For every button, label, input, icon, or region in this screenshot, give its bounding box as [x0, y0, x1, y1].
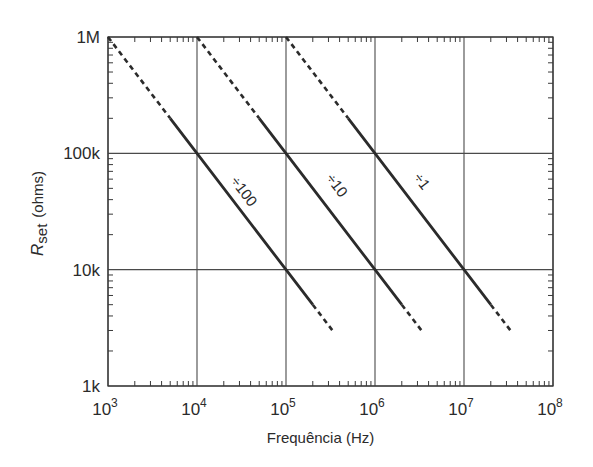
y-tick-label: 1M — [76, 28, 100, 47]
series-line-dashed-lower — [313, 305, 333, 331]
series-line-dashed-upper — [286, 37, 348, 118]
y-axis-title: Rset(ohms) — [28, 171, 50, 256]
series-lines — [108, 37, 511, 331]
series-line-solid — [170, 118, 313, 304]
series-label: ÷10 — [323, 170, 352, 200]
x-tick-label: 104 — [181, 396, 207, 419]
y-axis-title-unit: (ohms) — [29, 171, 46, 218]
series-line-dashed-upper — [108, 37, 170, 118]
y-axis-title-sub: set — [33, 223, 50, 244]
x-axis-tick-labels: 103104105106107108 — [92, 396, 563, 419]
series-label: ÷1 — [410, 169, 434, 192]
x-tick-label: 108 — [537, 396, 563, 419]
x-tick-label: 106 — [359, 396, 385, 419]
series-line-dashed-upper — [197, 37, 259, 118]
y-axis-title-main: R — [28, 244, 47, 256]
series-line-solid — [259, 118, 402, 304]
series-line-dashed-lower — [491, 305, 511, 331]
x-tick-label: 103 — [92, 396, 118, 419]
series-line-dashed-lower — [402, 305, 422, 331]
x-tick-label: 105 — [270, 396, 296, 419]
x-axis-title: Frequência (Hz) — [267, 429, 375, 446]
y-tick-label: 1k — [82, 377, 100, 396]
x-tick-label: 107 — [448, 396, 474, 419]
chart: ÷100÷10÷1 103104105106107108 1M100k10k1k… — [0, 0, 593, 467]
series-label: ÷100 — [227, 173, 261, 210]
series-line-solid — [348, 118, 491, 304]
y-axis-tick-labels: 1M100k10k1k — [63, 28, 100, 396]
y-tick-label: 100k — [63, 144, 100, 163]
y-tick-label: 10k — [73, 261, 101, 280]
